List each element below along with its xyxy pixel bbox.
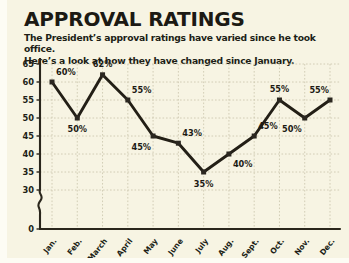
x-axis-month-label: April — [115, 237, 135, 259]
data-point-marker — [75, 116, 80, 121]
data-point-marker — [252, 134, 257, 139]
y-axis-tick-label: 35 — [22, 167, 34, 177]
chart-subtitle-line-1: The President’s approval ratings have va… — [24, 32, 324, 55]
data-point-label: 55% — [309, 85, 329, 95]
x-axis-month-label: Aug. — [216, 237, 235, 258]
data-point-label: 50% — [67, 124, 87, 134]
data-point-label: 62% — [93, 59, 113, 69]
chart-figure: APPROVAL RATINGS The President’s approva… — [0, 0, 349, 263]
data-point-label: 55% — [270, 84, 290, 94]
chart-plot-area: 65605550454035300 60%50%62%55%45%43%35%4… — [0, 58, 349, 263]
data-point-marker — [176, 141, 181, 146]
y-axis-tick-label: 55 — [22, 95, 34, 105]
x-axis-month-label: March — [86, 237, 109, 263]
y-axis-tick-labels: 65605550454035300 — [22, 59, 34, 234]
data-point-labels: 60%50%62%55%45%43%35%40%45%55%50%55% — [56, 59, 329, 189]
data-point-label: 55% — [132, 85, 152, 95]
data-point-label: 45% — [131, 142, 151, 152]
data-point-label: 35% — [194, 179, 214, 189]
data-point-marker — [277, 98, 282, 103]
x-axis-month-labels: Jan.Feb.MarchAprilMayJuneJulyAug.Sept.Oc… — [41, 237, 337, 263]
y-axis-tick-label: 45 — [22, 131, 34, 141]
data-point-label: 43% — [182, 128, 202, 138]
data-point-marker — [201, 170, 206, 175]
data-point-label: 50% — [282, 124, 302, 134]
y-axis-tick-label: 0 — [28, 224, 34, 234]
data-point-marker — [50, 80, 55, 85]
data-point-marker — [226, 152, 231, 157]
data-point-marker — [100, 72, 105, 77]
line-chart-svg: 65605550454035300 60%50%62%55%45%43%35%4… — [0, 58, 349, 263]
y-axis-tick-label: 30 — [22, 185, 34, 195]
data-point-marker — [151, 134, 156, 139]
data-point-marker — [302, 116, 307, 121]
x-axis-month-label: Dec. — [318, 237, 337, 257]
y-axis-tick-label: 60 — [22, 77, 34, 87]
x-axis-month-label: Sept. — [240, 237, 261, 260]
x-axis-month-label: June — [166, 237, 185, 258]
y-axis-tick-label: 50 — [22, 113, 34, 123]
x-axis-month-label: Jan. — [41, 237, 59, 256]
data-point-marker — [125, 98, 130, 103]
data-point-label: 45% — [258, 121, 278, 131]
x-axis-month-label: Oct. — [268, 237, 286, 256]
data-point-marker — [328, 98, 333, 103]
x-axis-month-label: Feb. — [65, 237, 83, 257]
y-axis-line — [38, 58, 41, 229]
data-point-label: 60% — [56, 67, 76, 77]
y-axis-tick-label: 40 — [22, 149, 34, 159]
x-axis-month-label: Nov. — [293, 237, 312, 257]
x-axis-month-label: May — [142, 237, 160, 256]
x-axis-month-label: July — [193, 237, 210, 256]
y-axis-tick-label: 65 — [22, 59, 34, 69]
data-point-label: 40% — [233, 159, 253, 169]
page-title: APPROVAL RATINGS — [24, 9, 324, 30]
grid-lines — [40, 64, 340, 229]
